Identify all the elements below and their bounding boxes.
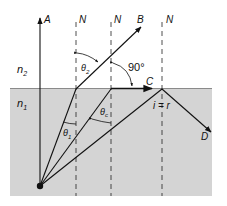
ray-b xyxy=(76,27,141,89)
refraction-diagram: A N N B N n2 n1 θ2 90° C θ1 θc i = r D xyxy=(0,0,227,206)
label-normal-2: N xyxy=(114,14,122,25)
light-source-point xyxy=(37,183,43,189)
label-90-degrees: 90° xyxy=(128,61,145,73)
theta-2-arc xyxy=(77,53,98,62)
label-c: C xyxy=(146,76,154,87)
label-b: B xyxy=(137,14,144,25)
label-normal-3: N xyxy=(166,14,174,25)
label-theta-2: θ2 xyxy=(81,63,90,75)
label-n2: n2 xyxy=(17,63,27,77)
label-normal-1: N xyxy=(79,14,87,25)
label-d: D xyxy=(201,131,208,142)
label-a: A xyxy=(43,14,51,25)
label-i-equals-r: i = r xyxy=(153,100,171,111)
